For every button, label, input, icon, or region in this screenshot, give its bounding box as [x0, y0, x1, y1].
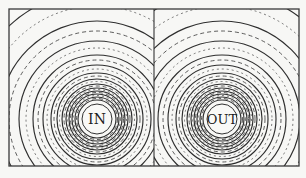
field-lines [0, 0, 306, 178]
conductor-out: OUT [207, 104, 238, 134]
conductor-out-label: OUT [207, 112, 238, 127]
field-rings-in [0, 0, 242, 178]
conductor-in: IN [82, 104, 112, 134]
solid-field-ring [124, 21, 306, 178]
conductor-in-label: IN [88, 111, 106, 127]
field-diagram: IN OUT [0, 0, 306, 178]
